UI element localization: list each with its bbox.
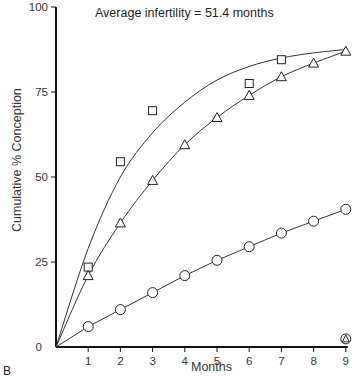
x-tick-label: 6 <box>246 355 252 367</box>
data-markers <box>83 46 351 344</box>
chart-annotation: Average infertility = 51.4 months <box>95 6 274 20</box>
x-axis-label: Months <box>191 360 232 374</box>
circle-marker <box>309 216 319 226</box>
circle-marker <box>341 204 351 214</box>
y-tick-label: 25 <box>35 256 48 268</box>
fit-curves <box>56 50 346 348</box>
chart-canvas: 0255075100123456789 <box>0 0 357 378</box>
square-marker <box>245 80 253 88</box>
y-axis-label: Cumulative % Conception <box>10 88 24 232</box>
x-tick-label: 4 <box>182 355 189 367</box>
panel-label: B <box>3 364 11 378</box>
y-tick-label: 0 <box>36 341 42 353</box>
y-tick-label: 75 <box>35 86 48 98</box>
squares-fit-line <box>56 50 346 348</box>
circle-marker <box>83 322 93 332</box>
y-tick-label: 100 <box>29 1 48 13</box>
square-marker <box>277 56 285 64</box>
circle-marker <box>148 288 158 298</box>
axes: 0255075100123456789 <box>29 1 349 367</box>
y-tick-label: 50 <box>35 171 48 183</box>
square-marker <box>149 107 157 115</box>
triangle-marker <box>244 90 254 99</box>
square-marker <box>116 158 124 166</box>
circle-marker <box>115 305 125 315</box>
x-tick-label: 2 <box>117 355 123 367</box>
triangle-marker <box>212 113 222 122</box>
circle-marker <box>276 228 286 238</box>
circle-marker <box>212 255 222 265</box>
triangles-fit-line <box>56 51 346 347</box>
x-tick-label: 9 <box>343 355 349 367</box>
triangle-marker <box>341 46 351 55</box>
circle-marker <box>244 242 254 252</box>
x-tick-label: 8 <box>310 355 316 367</box>
circles-fit-line <box>56 209 346 347</box>
x-tick-label: 7 <box>278 355 284 367</box>
x-tick-label: 3 <box>149 355 155 367</box>
triangle-marker <box>276 72 286 81</box>
triangle-marker <box>83 271 93 280</box>
x-tick-label: 1 <box>85 355 91 367</box>
triangle-marker <box>115 218 125 227</box>
triangle-marker <box>309 58 319 67</box>
circle-marker <box>180 271 190 281</box>
